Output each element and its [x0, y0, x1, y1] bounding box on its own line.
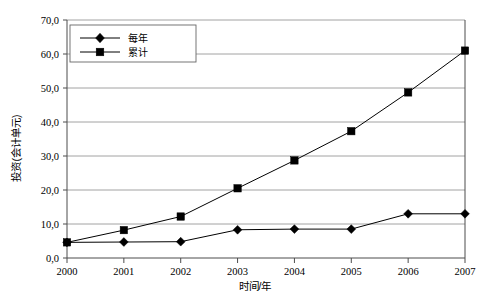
x-axis-title: 时间/年 — [239, 280, 272, 292]
data-point-1-5 — [348, 127, 355, 134]
x-tick-label-2004: 2004 — [284, 266, 306, 277]
data-point-1-1 — [120, 226, 127, 233]
chart-container: 0,010,020,030,040,050,060,070,0 20002001… — [0, 0, 486, 307]
x-tick-label-2001: 2001 — [113, 266, 134, 277]
legend-label-1: 累计 — [128, 46, 148, 58]
y-tick-label-30: 30,0 — [41, 151, 59, 162]
data-point-1-2 — [177, 213, 184, 220]
y-tick-label-10: 10,0 — [41, 219, 59, 230]
y-tick-label-50: 50,0 — [41, 83, 59, 94]
data-point-1-0 — [63, 239, 70, 246]
legend-label-0: 每年 — [128, 32, 148, 44]
data-point-1-3 — [234, 185, 241, 192]
data-point-1-6 — [404, 89, 411, 96]
square-marker-icon — [96, 48, 104, 56]
x-tick-label-2007: 2007 — [455, 266, 476, 277]
y-tick-label-60: 60,0 — [41, 49, 59, 60]
x-tick-label-2002: 2002 — [170, 266, 191, 277]
x-tick-label-2000: 2000 — [57, 266, 78, 277]
data-point-1-4 — [291, 157, 298, 164]
y-tick-label-70: 70,0 — [41, 15, 59, 26]
x-tick-label-2005: 2005 — [341, 266, 362, 277]
x-tick-label-2003: 2003 — [227, 266, 248, 277]
line-chart: 0,010,020,030,040,050,060,070,0 20002001… — [0, 0, 486, 307]
y-tick-label-20: 20,0 — [41, 185, 59, 196]
y-tick-label-40: 40,0 — [41, 117, 59, 128]
data-point-1-7 — [461, 47, 468, 54]
chart-legend: 每年 累计 — [70, 25, 196, 62]
y-tick-label-0: 0,0 — [46, 253, 59, 264]
x-tick-label-2006: 2006 — [398, 266, 419, 277]
y-axis-title: 投资(会计单元) — [10, 115, 22, 182]
